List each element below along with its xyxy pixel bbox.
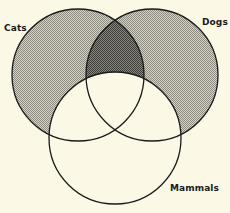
mammals-label: Mammals: [170, 183, 219, 193]
dogs-label: Dogs: [202, 17, 228, 27]
cats-label: Cats: [4, 23, 27, 33]
venn-diagram: [0, 0, 230, 213]
